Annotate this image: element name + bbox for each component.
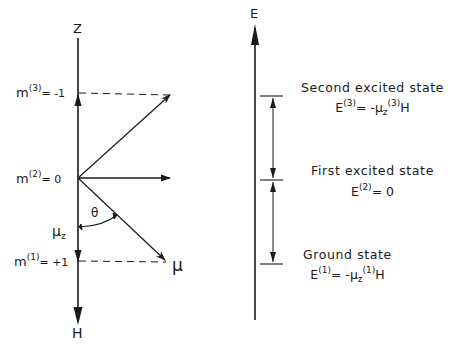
eq-suffix: H <box>400 100 409 115</box>
eq-subscript: z <box>383 107 388 117</box>
first-excited-state-equation: E(2)= 0 <box>290 183 455 199</box>
ground-state-equation: E(1)= -μz(1)H <box>290 266 405 284</box>
theta-arc-arrowhead-left-icon <box>79 224 82 230</box>
second-excited-state-equation: E(3)= -μz(3)H <box>290 99 455 117</box>
m2-value: = 0 <box>41 173 61 186</box>
energy-axis-label: E <box>250 7 258 20</box>
m1-label: m(1)= +1 <box>14 253 68 268</box>
eq-suffix: H <box>375 267 384 282</box>
eq-symbol: E <box>351 184 359 199</box>
mu-z-symbol: μ <box>52 223 61 239</box>
eq-mid: = -μ <box>331 267 358 282</box>
eq-superscript: (3) <box>343 98 356 108</box>
energy-axis <box>251 24 259 320</box>
m2-symbol: m <box>16 171 29 186</box>
energy-axis-arrowhead-icon <box>251 24 259 45</box>
m3-symbol: m <box>16 85 29 100</box>
m1-superscript: (1) <box>27 252 40 262</box>
z-axis-label: Z <box>73 22 82 35</box>
eq-symbol: E <box>310 267 318 282</box>
theta-arc <box>80 215 117 227</box>
mu-z-up-arrowhead-icon <box>75 93 82 106</box>
second-excited-state-title: Second excited state <box>290 82 455 95</box>
mu-z-label: μz <box>52 224 66 241</box>
first-excited-state-title: First excited state <box>290 165 455 178</box>
eq-superscript-2: (3) <box>388 98 401 108</box>
eq-superscript: (2) <box>359 182 372 192</box>
eq-mid: = -μ <box>356 100 383 115</box>
m2-superscript: (2) <box>29 169 42 179</box>
moment-vector-m3 <box>78 95 170 178</box>
m3-superscript: (3) <box>29 83 42 93</box>
h-field-label: H <box>72 326 83 340</box>
gap-arrow-upper <box>270 98 276 178</box>
m2-label: m(2)= 0 <box>16 170 61 185</box>
h-field-arrowhead-icon <box>74 307 83 325</box>
eq-symbol: E <box>335 100 343 115</box>
gap-arrow-lower <box>270 182 276 262</box>
m3-label: m(3)= -1 <box>16 84 65 99</box>
eq-superscript-2: (1) <box>363 265 376 275</box>
m3-dashed-line <box>79 93 170 95</box>
m1-value: = +1 <box>39 256 68 269</box>
eq-superscript: (1) <box>318 265 331 275</box>
m3-value: = -1 <box>41 87 65 100</box>
eq-mid: = 0 <box>372 184 394 199</box>
m1-symbol: m <box>14 254 27 269</box>
m1-dashed-line <box>79 261 166 262</box>
ground-state-title: Ground state <box>290 249 405 262</box>
eq-subscript: z <box>358 274 363 284</box>
theta-label: θ <box>91 207 98 219</box>
mu-z-subscript: z <box>61 231 66 241</box>
mu-label: μ <box>172 257 183 274</box>
